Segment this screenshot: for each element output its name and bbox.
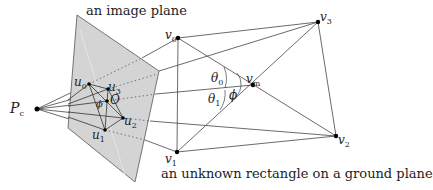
point-label-v3: v3 [320, 11, 332, 26]
point-label-o: O [110, 94, 120, 106]
point-label-u2: u2 [124, 115, 137, 130]
point-label-pc: Pc [10, 101, 24, 118]
angle-label-phi-image: ϕ [96, 99, 103, 109]
point-label-v2: v2 [338, 134, 350, 149]
angle-label-theta1: θ1 [208, 93, 220, 108]
point-label-u0: u0 [74, 76, 87, 91]
image-plane-label: an image plane [86, 4, 187, 17]
ground-rectangle-label: an unknown rectangle on a ground plane [161, 167, 433, 180]
point-label-v0: v0 [165, 29, 177, 44]
angle-label-phi: ϕ [229, 89, 237, 101]
point-label-vm: vm [246, 73, 260, 88]
point-label-u1: u1 [92, 129, 105, 144]
point-label-v1: v1 [165, 153, 177, 168]
angle-label-theta0: θ0 [211, 72, 223, 87]
